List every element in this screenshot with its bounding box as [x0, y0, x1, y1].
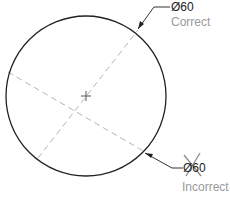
- dimension-text-correct: Ø60: [171, 1, 194, 13]
- dimension-text-incorrect: Ø60: [183, 162, 206, 174]
- leader-correct: [138, 7, 170, 29]
- label-correct: Correct: [171, 16, 210, 28]
- label-incorrect: Incorrect: [182, 181, 229, 193]
- centerline-diagonal-incorrect: [8, 72, 145, 152]
